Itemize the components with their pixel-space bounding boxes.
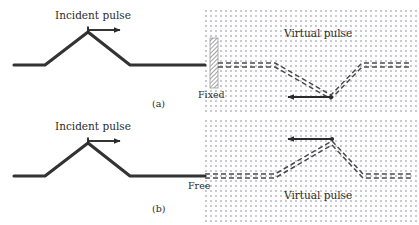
- virtual-pulse-a-outer: [218, 63, 412, 95]
- virtual-pulse-a-inner: [218, 67, 412, 99]
- virtual-arrow-a-tail: [329, 95, 333, 99]
- incident-pulse-b: [14, 143, 205, 176]
- incident-pulse-label-a: Incident pulse: [55, 10, 131, 21]
- virtual-pulse-b-inner: [205, 145, 412, 178]
- panel-label-b: (b): [152, 204, 166, 214]
- virtual-pulse-b-outer: [205, 141, 412, 174]
- fixed-wall: [210, 38, 218, 88]
- wave-reflection-figure: Incident pulse Virtual pulse Fixed (a) I…: [0, 0, 419, 225]
- panel-label-a: (a): [152, 99, 165, 109]
- free-label: Free: [188, 181, 210, 191]
- virtual-arrow-b-tail: [330, 137, 334, 141]
- fixed-label: Fixed: [198, 90, 225, 100]
- virtual-pulse-label-b: Virtual pulse: [284, 190, 352, 201]
- incident-pulse-a: [14, 32, 205, 65]
- virtual-pulse-label-a: Virtual pulse: [284, 28, 352, 39]
- incident-pulse-label-b: Incident pulse: [55, 121, 131, 132]
- diagram-strokes: [0, 0, 419, 225]
